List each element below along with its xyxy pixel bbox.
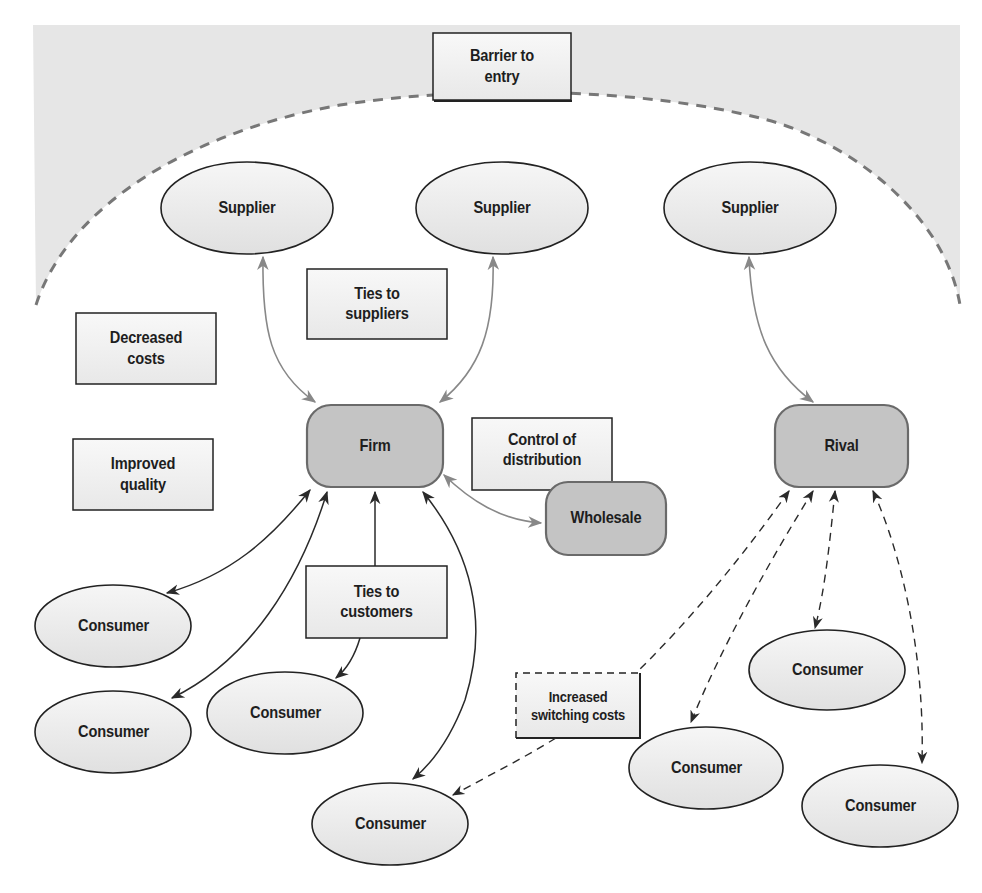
control-of-distribution-line1: Control of <box>503 430 581 450</box>
improved-quality-line1: Improved <box>111 454 175 474</box>
increased-switching-costs-label: Increasedswitching costs <box>525 673 632 738</box>
decreased-costs-label: Decreasedcosts <box>86 313 206 384</box>
ties-to-customers-label: Ties tocustomers <box>316 566 437 638</box>
arrow-rival-consumer-a <box>815 491 835 628</box>
wholesale-label: Wholesale <box>554 482 657 555</box>
rival-label: Rival <box>784 405 898 487</box>
supplier-label-2: Supplier <box>428 162 576 254</box>
decreased-costs-line1: Decreased <box>110 328 182 348</box>
consumer-label-7: Consumer <box>813 765 948 847</box>
consumer-label-1: Consumer <box>46 585 181 667</box>
consumer-label-5: Consumer <box>760 630 895 710</box>
control-of-distribution-line2: distribution <box>503 450 581 470</box>
barrier-label-line1: Barrier to <box>470 46 534 66</box>
consumer-label-6: Consumer <box>640 727 773 809</box>
decreased-costs-line2: costs <box>110 349 182 369</box>
ties-to-customers-line2: customers <box>340 602 412 622</box>
increased-switching-costs-line1: Increased <box>531 688 625 706</box>
improved-quality-line2: quality <box>111 475 175 495</box>
consumer-label-4: Consumer <box>323 783 458 865</box>
firm-label: Firm <box>317 405 434 487</box>
consumer-label-3: Consumer <box>218 672 353 754</box>
control-of-distribution-label: Control ofdistribution <box>482 418 602 482</box>
arrow-rival-consumer-c <box>873 491 922 763</box>
increased-switching-costs-line2: switching costs <box>531 706 625 724</box>
barrier-label-line2: entry <box>470 67 534 87</box>
supplier-label-1: Supplier <box>173 162 321 254</box>
improved-quality-label: Improvedquality <box>83 439 203 510</box>
arrow-firm-consumer2 <box>172 492 327 698</box>
supplier-label-3: Supplier <box>676 162 824 254</box>
arrow-supplier3-rival <box>749 257 813 402</box>
ties-to-suppliers-line1: Ties to <box>345 284 408 304</box>
barrier-to-entry-label: Barrier toentry <box>443 33 562 100</box>
ties-to-suppliers-line2: suppliers <box>345 304 408 324</box>
consumer-label-2: Consumer <box>46 691 181 773</box>
arrow-supplier2-firm <box>440 257 493 402</box>
ties-to-suppliers-label: Ties tosuppliers <box>317 269 437 339</box>
ties-to-customers-line1: Ties to <box>340 582 412 602</box>
arrow-switching-box-consumer4 <box>453 738 556 795</box>
